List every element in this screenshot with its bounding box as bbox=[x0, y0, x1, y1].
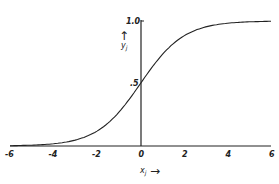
y-tick-label-one: 1.0 bbox=[126, 17, 141, 26]
x-tick-label: 2 bbox=[182, 150, 188, 159]
x-arrow-icon: → bbox=[150, 164, 160, 178]
x-axis-label: xj bbox=[139, 166, 147, 177]
x-tick-label: 4 bbox=[225, 150, 232, 159]
sigmoid-chart: -6-4-20246 .5 1.0 yj ↑ xj → bbox=[0, 0, 279, 184]
x-tick-label: 6 bbox=[269, 150, 275, 159]
x-tick-labels: -6-4-20246 bbox=[5, 150, 275, 159]
x-tick-label: 0 bbox=[139, 150, 145, 159]
y-arrow-icon: ↑ bbox=[119, 29, 129, 43]
y-tick-label-half: .5 bbox=[130, 79, 139, 88]
x-tick-label: -4 bbox=[49, 150, 58, 159]
x-tick-label: -6 bbox=[5, 150, 14, 159]
x-tick-label: -2 bbox=[92, 150, 101, 159]
